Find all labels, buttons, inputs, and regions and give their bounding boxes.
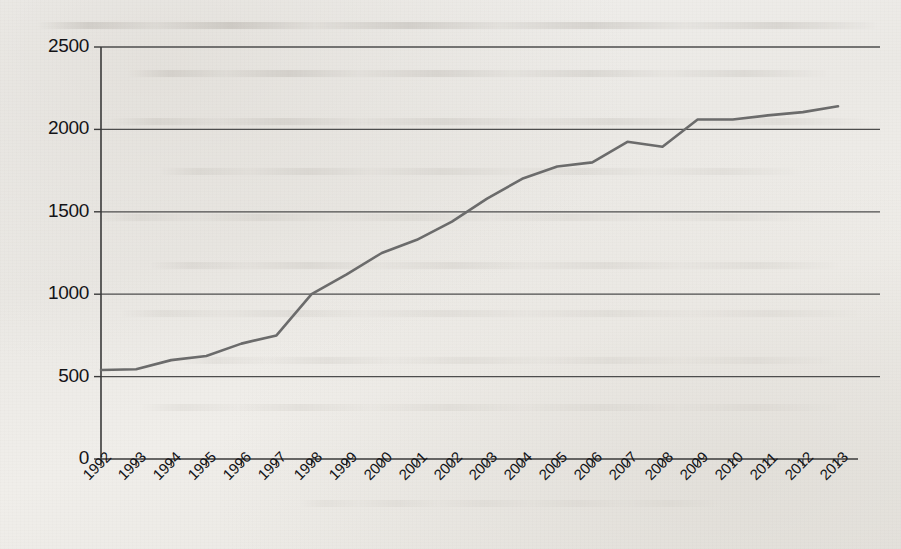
y-axis-tick-label: 1000 (48, 282, 89, 304)
y-axis-tick-label: 1500 (48, 200, 89, 222)
y-axis-tick-label: 2500 (48, 35, 89, 57)
data-series-line (101, 106, 838, 370)
y-axis-ticks (94, 47, 101, 459)
gridlines (101, 47, 880, 377)
scanned-chart-page: 25002000150010005000 1992199319941995199… (0, 0, 901, 549)
y-axis-tick-label: 500 (58, 365, 89, 387)
y-axis-tick-label: 2000 (48, 117, 89, 139)
